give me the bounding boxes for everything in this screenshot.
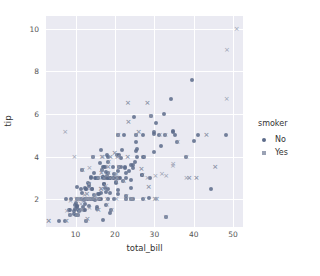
legend-label-no: No: [275, 135, 286, 144]
data-point-no: [101, 218, 105, 222]
data-point-yes: [138, 167, 143, 172]
data-point-no: [57, 219, 61, 223]
x-tick-label: 40: [189, 230, 199, 239]
x-tick-label: 20: [110, 230, 120, 239]
data-point-yes: [106, 170, 111, 175]
legend-item-yes[interactable]: Yes: [258, 146, 318, 159]
data-point-yes: [104, 197, 109, 202]
data-point-yes: [63, 218, 68, 223]
data-point-yes: [136, 129, 141, 134]
data-point-yes: [148, 113, 153, 118]
data-point-yes: [46, 218, 51, 223]
data-point-yes: [90, 154, 95, 159]
gridline-vertical: [194, 16, 195, 227]
data-point-yes: [234, 26, 239, 31]
data-point-no: [196, 133, 200, 137]
data-point-yes: [78, 207, 83, 212]
data-point-yes: [115, 154, 120, 159]
data-point-no: [154, 121, 158, 125]
gridline-horizontal: [46, 114, 243, 115]
data-point-no: [131, 166, 135, 170]
plot-panel: [46, 16, 243, 227]
legend-marker-circle-icon: [258, 138, 270, 142]
data-point-yes: [125, 154, 130, 159]
x-tick-label: 30: [150, 230, 160, 239]
data-point-yes: [76, 197, 81, 202]
data-point-no: [169, 97, 173, 101]
data-point-no: [127, 169, 131, 173]
data-point-yes: [224, 96, 229, 101]
data-point-yes: [67, 213, 72, 218]
data-point-yes: [125, 101, 130, 106]
legend-label-yes: Yes: [275, 148, 288, 157]
data-point-no: [173, 133, 177, 137]
data-point-no: [134, 149, 138, 153]
data-point-no: [190, 78, 194, 82]
scatter-plot-figure: 1020304050 246810 total_bill tip smoker …: [0, 0, 320, 276]
data-point-yes: [62, 130, 67, 135]
data-point-yes: [96, 207, 101, 212]
data-point-yes: [121, 178, 126, 183]
legend-item-no[interactable]: No: [258, 133, 318, 146]
data-point-no: [171, 130, 175, 134]
data-point-yes: [108, 176, 113, 181]
data-point-no: [122, 133, 126, 137]
data-point-no: [209, 187, 213, 191]
data-point-yes: [163, 215, 168, 220]
data-point-yes: [87, 206, 92, 211]
data-point-yes: [175, 140, 180, 145]
data-point-yes: [145, 176, 150, 181]
data-point-yes: [107, 154, 112, 159]
data-point-no: [152, 150, 156, 154]
data-point-yes: [124, 193, 129, 198]
data-point-yes: [115, 133, 120, 138]
data-point-no: [134, 140, 138, 144]
data-point-no: [116, 188, 120, 192]
data-point-yes: [82, 197, 87, 202]
data-point-yes: [157, 133, 162, 138]
data-point-yes: [89, 197, 94, 202]
y-tick-label: 2: [34, 195, 39, 204]
data-point-yes: [186, 176, 191, 181]
y-axis-label: tip: [3, 115, 13, 126]
data-point-yes: [99, 171, 104, 176]
data-point-yes: [141, 197, 146, 202]
legend: smoker No Yes: [258, 119, 318, 159]
x-tick-label: 10: [71, 230, 81, 239]
legend-title: smoker: [258, 119, 318, 128]
data-point-no: [129, 186, 133, 190]
data-point-yes: [145, 101, 150, 106]
data-point-no: [135, 155, 139, 159]
gridline-vertical: [233, 16, 234, 227]
data-point-yes: [126, 119, 131, 124]
data-point-yes: [193, 176, 198, 181]
y-tick-label: 8: [34, 67, 39, 76]
data-point-no: [224, 133, 228, 137]
data-point-yes: [141, 154, 146, 159]
data-point-no: [124, 171, 128, 175]
data-point-yes: [68, 199, 73, 204]
data-point-yes: [113, 197, 118, 202]
data-point-yes: [163, 173, 168, 178]
data-point-yes: [114, 179, 119, 184]
data-point-yes: [109, 207, 114, 212]
data-point-yes: [224, 48, 229, 53]
x-tick-label: 50: [228, 230, 238, 239]
data-point-no: [152, 130, 156, 134]
data-point-no: [162, 112, 166, 116]
gridline-horizontal: [46, 71, 243, 72]
data-point-yes: [73, 213, 78, 218]
y-tick-label: 6: [34, 110, 39, 119]
data-point-no: [132, 115, 136, 119]
data-point-yes: [99, 154, 104, 159]
gridline-horizontal: [46, 29, 243, 30]
data-point-no: [123, 166, 127, 170]
data-point-yes: [97, 197, 102, 202]
data-point-yes: [116, 165, 121, 170]
data-point-yes: [152, 174, 157, 179]
data-point-yes: [87, 165, 92, 170]
data-point-yes: [204, 133, 209, 138]
data-point-no: [159, 144, 163, 148]
data-point-yes: [85, 216, 90, 221]
data-point-yes: [86, 181, 91, 186]
